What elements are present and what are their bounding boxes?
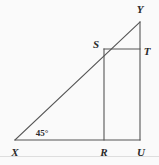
segment-hypotenuse-XY (15, 22, 140, 140)
geometry-figure: X Y U R S T 45° (0, 0, 159, 165)
vertex-label-U: U (137, 147, 145, 158)
vertex-label-Y: Y (137, 4, 144, 15)
vertex-label-R: R (100, 147, 107, 158)
vertex-label-X: X (11, 147, 18, 158)
vertex-label-T: T (144, 46, 151, 57)
scan-artifact-line (0, 156, 159, 157)
vertex-label-S: S (93, 39, 99, 50)
angle-label-45-degrees: 45° (36, 129, 49, 138)
figure-canvas (0, 0, 159, 165)
